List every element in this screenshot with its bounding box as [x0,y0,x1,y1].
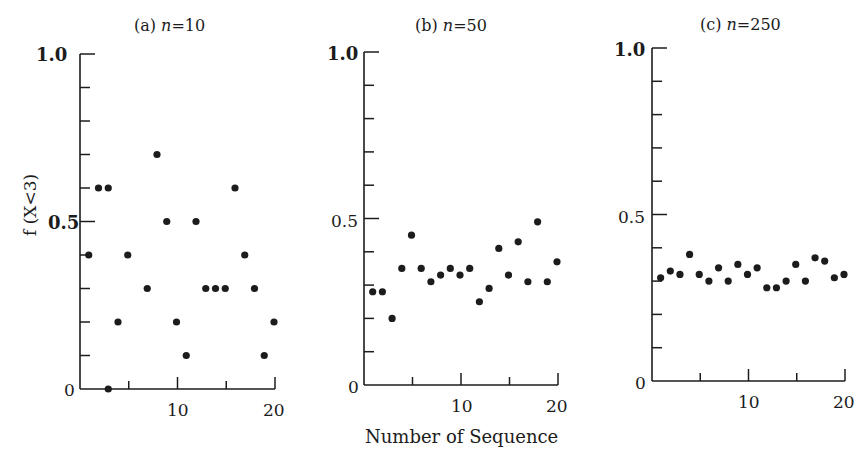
data-point [408,232,415,239]
data-point [676,271,683,278]
data-point [763,284,770,291]
panel-b: (b) n=50 1.0 0.5 0 10 20 [327,16,568,416]
panel-b-points [369,218,561,322]
panel-a-points [85,151,277,393]
panel-b-ytick-0: 0 [348,377,359,397]
data-point [270,318,277,325]
panel-c-points [657,251,848,292]
data-point [427,278,434,285]
data-point [183,352,190,359]
data-point [783,278,790,285]
panel-c-axes [652,48,845,381]
data-point [705,278,712,285]
panel-a-title: (a) n=10 [134,16,205,35]
data-point [773,284,780,291]
data-point [456,272,463,279]
data-point [476,298,483,305]
data-point [495,245,502,252]
panel-c-xtick-20: 20 [833,392,855,412]
data-point [725,278,732,285]
data-point [222,285,229,292]
data-point [85,251,92,258]
y-axis-title: f (X<3) [20,174,40,236]
data-point [831,274,838,281]
data-point [389,315,396,322]
panel-c-ytick-0: 0 [635,373,646,393]
data-point [744,271,751,278]
data-point [418,265,425,272]
x-axis-title: Number of Sequence [365,426,558,447]
panel-c: (c) n=250 1.0 0.5 0 10 20 [614,15,855,412]
data-point [212,285,219,292]
data-point [231,184,238,191]
data-point [515,238,522,245]
figure: (a) n=10 1.0 0.5 0 10 20 (b) n=50 1.0 0.… [0,0,868,467]
panel-a-axes [80,54,275,389]
data-point [715,264,722,271]
data-point [754,264,761,271]
panel-c-title: (c) n=250 [700,15,781,34]
panel-c-ytick-1: 1.0 [614,39,645,60]
panel-c-ytick-0-5: 0.5 [618,207,645,227]
data-point [524,278,531,285]
panel-b-xtick-10: 10 [451,396,473,416]
data-point [840,271,847,278]
panel-a-xtick-20: 20 [263,400,285,420]
data-point [802,278,809,285]
panel-a-xtick-10: 10 [167,400,189,420]
data-point [544,278,551,285]
data-point [486,285,493,292]
data-point [686,251,693,258]
data-point [466,265,473,272]
data-point [505,272,512,279]
data-point [792,261,799,268]
data-point [667,268,674,275]
data-point [369,288,376,295]
data-point [437,272,444,279]
panel-b-ytick-1: 1.0 [327,43,358,64]
panel-a-ytick-0: 0 [64,380,75,400]
data-point [657,274,664,281]
data-point [398,265,405,272]
data-point [553,258,560,265]
data-point [241,251,248,258]
data-point [821,258,828,265]
panel-b-title: (b) n=50 [415,16,487,35]
panel-b-ytick-0-5: 0.5 [331,211,358,231]
panel-a: (a) n=10 1.0 0.5 0 10 20 [36,16,285,420]
data-point [173,318,180,325]
data-point [163,218,170,225]
panel-a-ytick-1: 1.0 [36,44,67,65]
data-point [202,285,209,292]
data-point [734,261,741,268]
data-point [114,318,121,325]
data-point [696,271,703,278]
data-point [534,218,541,225]
panel-a-ytick-0-5: 0.5 [48,212,79,233]
data-point [144,285,151,292]
data-point [261,352,268,359]
data-point [192,218,199,225]
data-point [251,285,258,292]
data-point [811,254,818,261]
panel-c-xtick-10: 10 [738,392,760,412]
panel-b-xtick-20: 20 [546,396,568,416]
data-point [105,385,112,392]
data-point [379,288,386,295]
data-point [447,265,454,272]
plot-canvas: (a) n=10 1.0 0.5 0 10 20 (b) n=50 1.0 0.… [0,0,868,467]
panel-b-axes [364,52,558,385]
data-point [153,151,160,158]
data-point [124,251,131,258]
data-point [95,184,102,191]
data-point [105,184,112,191]
